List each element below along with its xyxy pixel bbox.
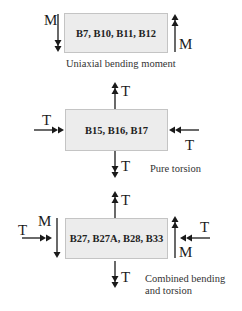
panel3-right-torsion-arrow-icon	[180, 235, 210, 242]
panel2-top-torsion-arrow-icon	[112, 82, 119, 109]
caption-uniaxial: Uniaxial bending moment	[66, 58, 176, 70]
moment-label-right: M	[179, 245, 192, 260]
box-label: B7, B10, B11, B12	[76, 28, 156, 39]
specimen-box-uniaxial: B7, B10, B11, B12	[64, 13, 168, 53]
caption-combined-line1: Combined bending	[145, 273, 225, 285]
torsion-label-right: T	[185, 138, 194, 153]
torsion-label-left: T	[18, 223, 27, 238]
moment-label-left: M	[44, 13, 57, 28]
box-label: B15, B16, B17	[85, 125, 148, 136]
torsion-label-right: T	[200, 220, 209, 235]
torsion-label-top: T	[121, 84, 130, 99]
moment-label-left: M	[38, 214, 51, 229]
panel3-top-torsion-arrow-icon	[112, 191, 119, 218]
torsion-label-bottom: T	[121, 270, 130, 285]
moment-label-right: M	[179, 37, 192, 52]
panel3-right-moment-arrow-icon	[172, 216, 179, 258]
panel1-right-moment-arrow-icon	[172, 14, 179, 52]
box-label: B27, B27A, B28, B33	[70, 233, 163, 244]
panel3-bottom-torsion-arrow-icon	[112, 261, 119, 288]
panel2-right-torsion-arrow-icon	[169, 127, 199, 134]
torsion-label-top: T	[121, 193, 130, 208]
specimen-box-pure-torsion: B15, B16, B17	[65, 109, 168, 151]
specimen-box-combined: B27, B27A, B28, B33	[65, 218, 168, 259]
loading-conditions-diagram: B7, B10, B11, B12 M M Uniaxial bending m…	[0, 0, 242, 311]
caption-pure-torsion: Pure torsion	[150, 163, 201, 175]
panel3-left-moment-arrow-icon	[54, 218, 61, 258]
panel2-bottom-torsion-arrow-icon	[112, 151, 119, 178]
torsion-label-bottom: T	[121, 159, 130, 174]
torsion-label-left: T	[42, 113, 51, 128]
caption-combined-line2: and torsion	[145, 285, 192, 297]
